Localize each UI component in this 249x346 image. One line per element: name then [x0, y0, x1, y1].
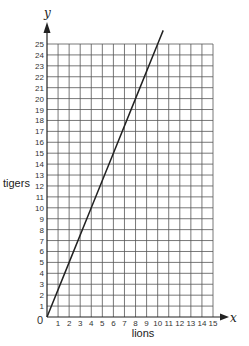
- y-tick-label: 20: [35, 95, 44, 104]
- y-axis-title: tigers: [3, 177, 30, 189]
- y-tick-label: 18: [35, 116, 44, 125]
- y-tick-label: 5: [40, 258, 45, 267]
- x-tick-label: 12: [175, 319, 184, 328]
- y-tick-label: 16: [35, 138, 44, 147]
- y-tick-label: 8: [40, 226, 45, 235]
- line-chart: 123456789101112131415 123456789101112131…: [0, 0, 249, 346]
- y-tick-label: 23: [35, 62, 44, 71]
- origin-label: 0: [37, 314, 43, 326]
- y-tick-label: 7: [40, 237, 45, 246]
- x-axis-title: lions: [132, 327, 155, 339]
- x-tick-label: 1: [56, 319, 61, 328]
- axes: [44, 22, 230, 321]
- y-tick-label: 9: [40, 215, 45, 224]
- x-tick-label: 11: [165, 319, 174, 328]
- y-tick-label: 4: [40, 269, 45, 278]
- y-tick-label: 24: [35, 51, 44, 60]
- y-tick-label: 22: [35, 73, 44, 82]
- x-tick-label: 3: [78, 319, 83, 328]
- y-tick-label: 17: [35, 127, 44, 136]
- y-tick-label: 6: [40, 247, 45, 256]
- x-tick-label: 10: [153, 319, 162, 328]
- series-line: [47, 30, 163, 317]
- x-tick-label: 5: [100, 319, 105, 328]
- x-tick-label: 7: [122, 319, 127, 328]
- y-tick-label: 19: [35, 106, 44, 115]
- x-tick-label: 4: [89, 319, 94, 328]
- y-tick-label: 12: [35, 182, 44, 191]
- y-tick-label: 21: [35, 84, 44, 93]
- x-tick-label: 2: [67, 319, 72, 328]
- y-tick-label: 1: [40, 302, 45, 311]
- y-axis-arrow-icon: [44, 22, 51, 33]
- y-tick-labels: 1234567891011121314151617181920212223242…: [35, 40, 44, 311]
- x-tick-label: 14: [197, 319, 206, 328]
- x-tick-label: 13: [186, 319, 195, 328]
- grid-lines: [47, 44, 213, 317]
- y-axis-symbol: y: [43, 6, 51, 20]
- y-tick-label: 2: [40, 291, 45, 300]
- x-axis-arrow-icon: [220, 314, 229, 321]
- data-series: [47, 30, 163, 317]
- y-tick-label: 10: [35, 204, 44, 213]
- y-tick-label: 11: [36, 193, 45, 202]
- y-tick-label: 15: [35, 149, 44, 158]
- x-tick-label: 6: [111, 319, 116, 328]
- y-tick-label: 25: [35, 40, 44, 49]
- y-tick-label: 3: [40, 280, 45, 289]
- x-tick-label: 15: [209, 319, 218, 328]
- y-tick-label: 13: [35, 171, 44, 180]
- y-tick-label: 14: [35, 160, 44, 169]
- x-axis-symbol: x: [230, 311, 237, 325]
